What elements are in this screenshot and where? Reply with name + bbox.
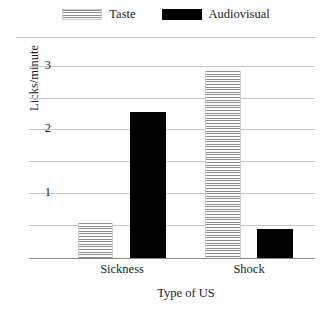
legend-divider	[16, 37, 316, 38]
bar-sickness-audiovisual	[130, 112, 166, 258]
gridline-ext-1-5	[29, 161, 57, 162]
x-axis-line	[29, 258, 315, 259]
x-tick-label-shock: Shock	[233, 263, 264, 276]
solid-swatch-icon	[162, 9, 202, 20]
x-axis-ticks: Sickness Shock	[57, 263, 315, 281]
gridline-ext-2-0	[29, 129, 57, 130]
legend-entry-taste: Taste	[62, 8, 135, 21]
y-tick-label-3: 3	[45, 59, 51, 72]
gridline-ext-1-0	[29, 193, 57, 194]
bar-shock-audiovisual	[257, 229, 293, 258]
bar-shock-taste	[205, 71, 241, 258]
gridline-ext-2-5	[29, 98, 57, 99]
legend-label-audiovisual: Audiovisual	[209, 8, 270, 21]
gridline-ext-3-0	[29, 66, 57, 67]
plot-area: 3 2 1	[57, 60, 315, 258]
bar-group-container	[57, 60, 315, 258]
gridline-ext-0-5	[29, 225, 57, 226]
x-axis-title: Type of US	[57, 286, 315, 301]
chart-legend: Taste Audiovisual	[0, 8, 332, 21]
y-tick-label-1: 1	[45, 186, 51, 199]
striped-swatch-icon	[62, 9, 102, 20]
legend-label-taste: Taste	[109, 8, 135, 21]
bar-sickness-taste	[78, 223, 113, 258]
x-tick-label-sickness: Sickness	[100, 263, 144, 276]
y-tick-label-2: 2	[45, 122, 51, 135]
legend-entry-audiovisual: Audiovisual	[162, 8, 270, 21]
bar-chart: Taste Audiovisual Licks/minute 3 2 1	[0, 0, 332, 309]
